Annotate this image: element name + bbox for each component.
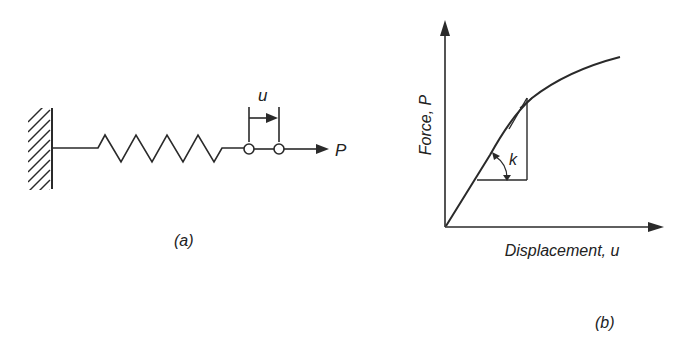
y-axis: [440, 20, 450, 227]
displacement-bracket-icon: [249, 107, 279, 142]
figure-b: [440, 20, 664, 232]
slope-label-k: k: [509, 151, 518, 168]
fixed-wall-icon: [28, 100, 52, 212]
x-axis: [445, 222, 664, 232]
figure-a: [28, 100, 329, 212]
figure-a-caption: (a): [174, 232, 194, 249]
diagram-canvas: u P (a) k Force, P Displacement,: [0, 0, 697, 346]
force-displacement-curve: [446, 57, 620, 226]
figure-b-caption: (b): [595, 314, 615, 331]
force-label-p: P: [335, 141, 347, 160]
node-2-icon: [274, 144, 284, 154]
force-arrow-icon: [284, 144, 329, 154]
spring-icon: [52, 135, 244, 162]
x-axis-label: Displacement, u: [505, 242, 620, 259]
displacement-label-u: u: [258, 86, 268, 105]
node-1-icon: [244, 144, 254, 154]
y-axis-label: Force, P: [417, 94, 434, 155]
y-axis-arrow-icon: [440, 20, 450, 36]
x-axis-arrow-icon: [648, 222, 664, 232]
